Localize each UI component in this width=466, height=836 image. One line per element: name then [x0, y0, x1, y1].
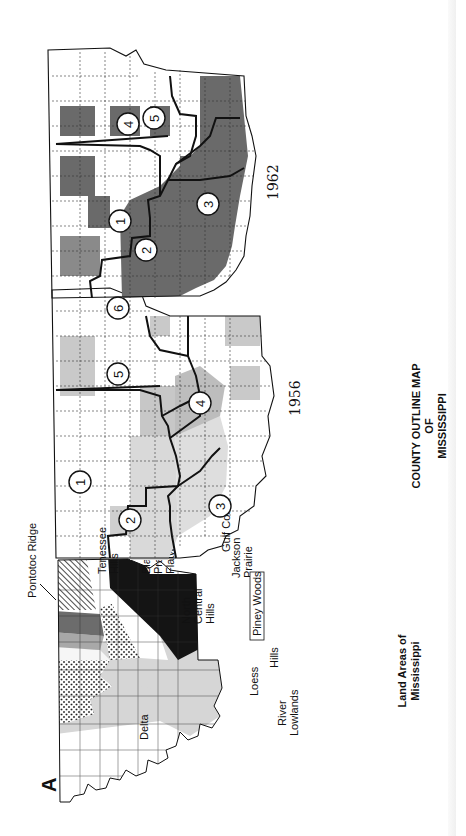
land-areas-caption-line2: Mississippi — [409, 616, 422, 726]
svg-text:2: 2 — [139, 247, 154, 254]
svg-text:1: 1 — [113, 218, 128, 225]
land-areas-caption-line1: Land Areas of — [396, 616, 409, 726]
svg-text:4: 4 — [121, 121, 136, 128]
district-1962-2: 2 — [135, 239, 157, 261]
land-areas-caption: Land Areas of Mississippi — [396, 616, 422, 726]
district-1962-4: 4 — [117, 113, 139, 135]
svg-text:5: 5 — [147, 115, 162, 122]
map-1962-year: 1962 — [265, 164, 281, 200]
district-1962-5: 5 — [143, 107, 165, 129]
scan-edge-artifact — [448, 0, 456, 836]
district-1962-3: 3 — [197, 193, 219, 215]
figure-page: A — [0, 0, 466, 836]
svg-text:3: 3 — [201, 201, 216, 208]
district-1962-1: 1 — [109, 210, 131, 232]
